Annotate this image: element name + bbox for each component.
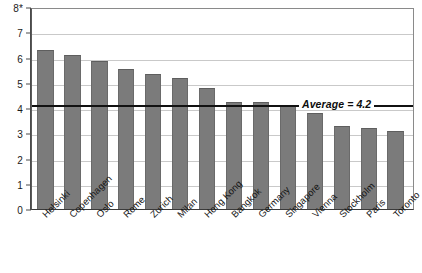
y-axis-tick-label: 4 [17, 104, 23, 115]
y-axis-tick-label: 5 [17, 78, 23, 89]
y-axis-tick-label: 6 [17, 53, 23, 64]
y-axis-tick-label: 1 [17, 179, 23, 190]
plot-area: Average = 4.2 [31, 8, 414, 210]
bar [387, 131, 404, 209]
average-line-label: Average = 4.2 [299, 98, 374, 110]
bars-layer: Average = 4.2 [32, 9, 413, 209]
x-axis-labels: HelsinkiCopenhagenOsloRomeZurichMilanHon… [31, 210, 414, 273]
y-axis-tick-label: 7 [17, 28, 23, 39]
y-axis-tick-label: 8* [13, 3, 23, 14]
bar [145, 74, 162, 209]
bar [64, 55, 81, 209]
y-axis: 8*76543210 [0, 0, 31, 210]
y-axis-tick-label: 0 [17, 205, 23, 216]
bar [118, 69, 135, 209]
y-axis-tick-label: 3 [17, 129, 23, 140]
bar [37, 50, 54, 209]
y-axis-tick-label: 2 [17, 154, 23, 165]
bar [172, 78, 189, 209]
bar-chart: 8*76543210 Average = 4.2 HelsinkiCopenha… [0, 0, 422, 273]
